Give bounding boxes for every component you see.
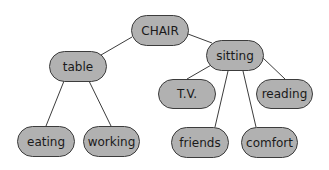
node-comfort: comfort: [241, 127, 298, 158]
node-sitting: sitting: [206, 40, 264, 71]
node-label: reading: [262, 87, 308, 101]
node-label: table: [63, 60, 93, 74]
node-label: sitting: [216, 49, 254, 63]
node-label: working: [88, 135, 136, 149]
node-label: friends: [179, 136, 220, 150]
edge-sitting-friends: [215, 71, 228, 127]
edge-sitting-tv: [187, 64, 213, 79]
node-working: working: [83, 126, 140, 157]
edge-chair-table: [101, 37, 132, 55]
edge-table-working: [89, 81, 111, 126]
node-label: CHAIR: [141, 24, 179, 38]
node-reading: reading: [256, 79, 313, 109]
edge-sitting-reading: [263, 58, 285, 79]
edge-chair-sitting: [188, 34, 212, 43]
node-friends: friends: [171, 127, 229, 158]
node-chair: CHAIR: [131, 15, 189, 46]
node-label: comfort: [246, 136, 293, 150]
edge-sitting-comfort: [243, 71, 256, 127]
node-label: eating: [27, 135, 65, 149]
node-eating: eating: [17, 126, 75, 157]
concept-diagram: CHAIRtablesittingeatingworkingT.V.readin…: [0, 0, 329, 170]
node-table: table: [49, 51, 107, 82]
node-label: T.V.: [177, 87, 197, 101]
edge-table-eating: [46, 81, 64, 126]
node-tv: T.V.: [158, 79, 216, 109]
